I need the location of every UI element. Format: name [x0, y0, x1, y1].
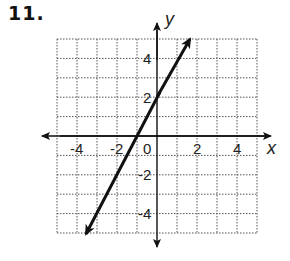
y-tick-label: -2	[138, 166, 151, 183]
plotted-line	[157, 39, 190, 97]
x-tick-label: -2	[110, 140, 123, 157]
y-tick-label: -4	[138, 205, 151, 222]
y-tick-label: 4	[143, 50, 151, 67]
x-axis-label: x	[266, 138, 277, 158]
x-tick-label: -4	[70, 140, 83, 157]
y-axis-label: y	[163, 9, 175, 29]
y-tick-label: 2	[143, 89, 151, 106]
coordinate-graph: y x -4 -2 0 2 4 4 2 -2 -4	[0, 0, 290, 261]
x-tick-label: 4	[233, 140, 241, 157]
x-tick-label: 0	[143, 140, 151, 157]
x-tick-label: 2	[193, 140, 201, 157]
